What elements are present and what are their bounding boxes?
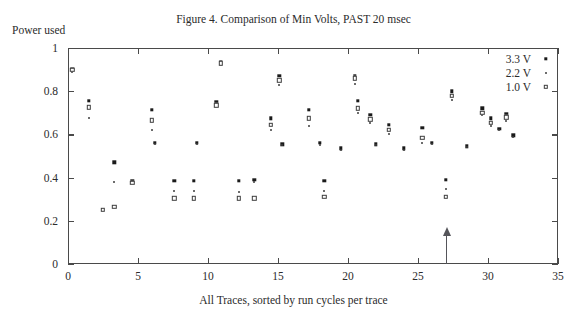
data-point <box>173 190 175 192</box>
x-tick-top <box>278 48 279 54</box>
data-point <box>270 129 272 131</box>
data-point <box>88 117 90 119</box>
data-point <box>322 179 325 182</box>
x-axis-caption: All Traces, sorted by run cycles per tra… <box>0 294 587 306</box>
plot-frame <box>68 48 558 264</box>
data-point <box>368 117 372 121</box>
y-tick-label: 0.6 <box>44 128 58 140</box>
x-tick-label: 30 <box>482 270 494 282</box>
data-point <box>386 128 390 132</box>
data-point <box>172 196 176 200</box>
data-point <box>498 129 500 131</box>
data-point <box>238 191 240 193</box>
y-tick-label: 1 <box>52 42 58 54</box>
x-tick <box>68 258 69 264</box>
data-point <box>387 123 390 126</box>
data-point <box>253 181 255 183</box>
x-tick-label: 5 <box>135 270 141 282</box>
data-point <box>150 108 153 111</box>
data-point <box>451 99 453 101</box>
data-point <box>193 190 195 192</box>
y-tick-right <box>552 134 558 135</box>
plot-area: 00.20.40.60.8105101520253035 3.3 V 2.2 V… <box>68 48 558 264</box>
data-point <box>420 135 424 139</box>
data-point <box>87 105 91 109</box>
x-tick-top <box>208 48 209 54</box>
chart-title: Figure 4. Comparison of Min Volts, PAST … <box>0 13 587 25</box>
data-point <box>356 99 359 102</box>
data-point <box>192 179 195 182</box>
data-point <box>281 144 283 146</box>
data-point <box>130 181 134 185</box>
data-point <box>70 67 74 71</box>
x-tick <box>488 258 489 264</box>
y-tick-right <box>552 221 558 222</box>
arrow-shaft <box>446 236 447 264</box>
data-point <box>269 116 272 119</box>
legend-marker-2.2v <box>542 69 550 77</box>
y-tick-right <box>552 264 558 265</box>
data-point <box>319 144 321 146</box>
y-axis-caption: Power used <box>12 24 65 36</box>
data-point <box>192 196 196 200</box>
data-point <box>150 118 154 122</box>
data-point <box>490 125 492 127</box>
data-point <box>420 126 423 129</box>
data-point <box>403 149 405 151</box>
data-point <box>237 179 240 182</box>
legend-entry-0: 3.3 V <box>506 52 550 66</box>
legend-marker-3.3v <box>542 55 550 63</box>
data-point <box>252 196 256 200</box>
legend-marker-1.0v <box>542 83 550 91</box>
data-point <box>504 115 508 119</box>
data-point <box>340 149 342 151</box>
data-point <box>353 76 357 80</box>
data-point <box>218 61 222 65</box>
y-tick <box>68 178 74 179</box>
data-point <box>445 188 447 190</box>
x-tick-label: 25 <box>412 270 424 282</box>
data-point <box>357 112 359 114</box>
data-point <box>307 116 311 120</box>
data-point <box>369 122 371 124</box>
data-point <box>375 144 377 146</box>
x-tick-top <box>348 48 349 54</box>
data-point <box>151 129 153 131</box>
data-point <box>308 125 310 127</box>
x-tick-top <box>488 48 489 54</box>
legend-entry-1: 2.2 V <box>506 66 550 80</box>
x-tick <box>348 258 349 264</box>
legend-label-0: 3.3 V <box>506 53 531 65</box>
arrow-head <box>443 227 451 236</box>
data-point <box>431 143 433 145</box>
x-tick-label: 0 <box>65 270 71 282</box>
data-point <box>466 146 468 148</box>
data-point <box>444 195 448 199</box>
legend-label-1: 2.2 V <box>506 67 531 79</box>
y-tick-right <box>552 178 558 179</box>
x-tick-top <box>138 48 139 54</box>
data-point <box>388 133 390 135</box>
data-point <box>356 106 360 110</box>
legend-label-2: 1.0 V <box>506 81 531 93</box>
legend: 3.3 V 2.2 V 1.0 V <box>506 52 550 94</box>
y-tick-label: 0.2 <box>44 215 58 227</box>
data-point <box>322 195 326 199</box>
data-point <box>421 142 423 144</box>
x-tick <box>418 258 419 264</box>
data-point <box>101 208 105 212</box>
data-point <box>354 83 356 85</box>
data-point <box>173 179 176 182</box>
x-tick <box>138 258 139 264</box>
y-tick <box>68 91 74 92</box>
y-tick-right <box>552 91 558 92</box>
x-tick-label: 15 <box>272 270 284 282</box>
data-point <box>512 136 514 138</box>
x-tick <box>558 258 559 264</box>
x-tick-top <box>68 48 69 54</box>
data-point <box>214 103 218 107</box>
data-point <box>323 190 325 192</box>
data-point <box>112 205 116 209</box>
x-tick-label: 20 <box>342 270 354 282</box>
data-point <box>112 161 115 164</box>
